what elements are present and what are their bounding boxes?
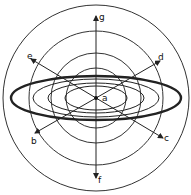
- label-b: b: [31, 136, 37, 146]
- label-d: d: [158, 52, 164, 62]
- axis-c: [96, 98, 163, 138]
- center-point: [94, 96, 98, 100]
- label-e: e: [27, 51, 33, 61]
- label-g: g: [99, 12, 105, 22]
- label-c: c: [164, 133, 169, 143]
- concentric-ellipse-diagram: a g f e d b c: [0, 0, 191, 195]
- label-a: a: [102, 93, 108, 103]
- axis-e: [31, 59, 96, 98]
- label-f: f: [98, 175, 102, 185]
